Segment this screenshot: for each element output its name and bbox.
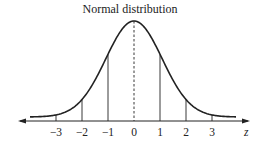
axis-arrow-left-icon bbox=[18, 119, 26, 124]
tick-label: −2 bbox=[76, 126, 88, 138]
tick-labels: −3−2−10123 bbox=[50, 126, 215, 138]
axis-arrow-right-icon bbox=[242, 119, 250, 124]
tick-label: 1 bbox=[157, 126, 163, 138]
normal-distribution-diagram: −3−2−10123 z bbox=[0, 0, 260, 148]
tick-label: 2 bbox=[183, 126, 189, 138]
tick-label: 0 bbox=[131, 126, 137, 138]
axis-label-z: z bbox=[243, 126, 249, 138]
sigma-lines bbox=[56, 21, 212, 121]
tick-label: −1 bbox=[102, 126, 114, 138]
tick-label: 3 bbox=[209, 126, 215, 138]
tick-label: −3 bbox=[50, 126, 62, 138]
bell-curve bbox=[30, 21, 236, 117]
